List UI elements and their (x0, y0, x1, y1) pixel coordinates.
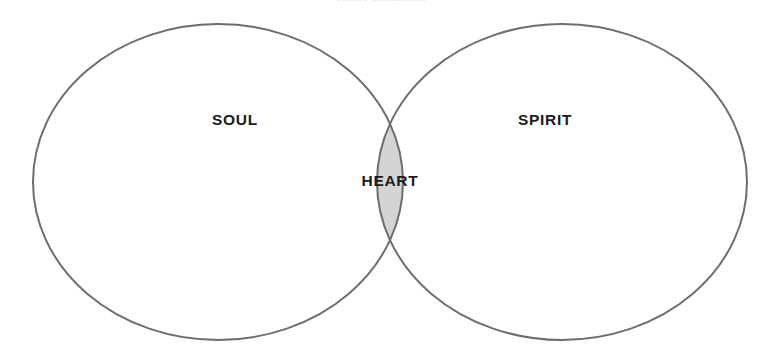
venn-diagram-graphic: SOUL SPIRIT HEART (0, 0, 762, 359)
set-circle-spirit[interactable] (377, 24, 747, 340)
set-label-spirit: SPIRIT (518, 111, 572, 128)
intersection-label-heart: HEART (362, 172, 419, 189)
set-circle-soul[interactable] (33, 24, 403, 340)
set-label-soul: SOUL (212, 111, 258, 128)
venn-diagram-canvas: VENN DIAGRAM SOUL SPIRIT HEART (0, 0, 762, 359)
